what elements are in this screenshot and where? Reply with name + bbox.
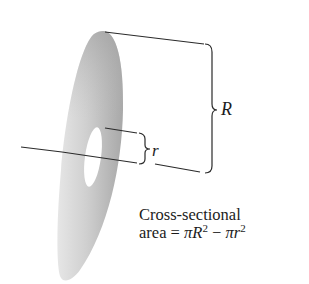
exponent: 2 <box>240 222 246 234</box>
pi-symbol: π <box>225 223 233 242</box>
minus-sign: − <box>208 223 226 242</box>
inner-radius-brace <box>139 133 150 164</box>
outer-radius-bottom-line <box>155 164 200 172</box>
area-caption: Cross-sectional area = πR2 − πr2 <box>139 206 246 242</box>
outer-radius-symbol: R <box>192 223 202 242</box>
outer-radius-top-line <box>105 32 204 44</box>
inner-radius-label: r <box>152 141 159 161</box>
caption-line-2: area = πR2 − πr2 <box>139 224 246 242</box>
axis-line <box>21 147 62 152</box>
outer-radius-brace <box>205 44 217 173</box>
caption-line-1: Cross-sectional <box>139 206 246 224</box>
outer-radius-label: R <box>221 99 232 120</box>
caption-prefix: area = <box>139 223 184 242</box>
